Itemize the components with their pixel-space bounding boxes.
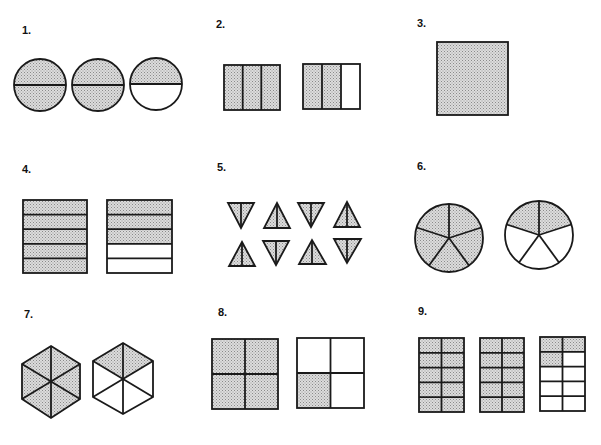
fraction-figures bbox=[0, 0, 601, 445]
problem-8-figures bbox=[212, 338, 364, 409]
problem-6-figures bbox=[415, 201, 573, 272]
problem-7-figures bbox=[22, 343, 153, 418]
problem-9-figures bbox=[419, 337, 585, 412]
circle-half-shaded-2 bbox=[72, 59, 124, 111]
circle-half-shaded-1 bbox=[14, 59, 66, 111]
problem-2-figures bbox=[224, 64, 360, 110]
problem-4-figures bbox=[23, 200, 172, 273]
problem-3-figures bbox=[437, 42, 508, 115]
problem-5-figures bbox=[228, 202, 361, 266]
circle-half-shaded-3 bbox=[130, 58, 182, 110]
problem-1-figures bbox=[14, 58, 182, 111]
